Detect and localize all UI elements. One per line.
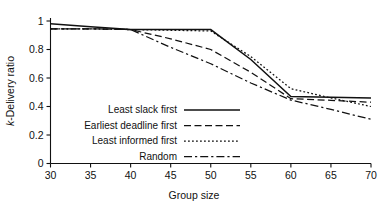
x-tick-label: 45: [165, 169, 177, 181]
x-tick-label: 55: [245, 169, 257, 181]
series-line-least-informed-first: [51, 29, 372, 107]
data-series-group: [51, 24, 372, 119]
series-line-random: [51, 29, 372, 119]
x-tick-label: 65: [325, 169, 337, 181]
y-tick-labels: 00.20.40.60.81: [29, 15, 44, 170]
y-tick-label: 0.2: [29, 129, 44, 141]
series-line-least-slack-first: [51, 24, 372, 98]
y-axis-title-rest: -Delivery ratio: [4, 56, 16, 121]
y-axis-title: k-Delivery ratio: [4, 56, 16, 126]
x-tick-labels: 303540455055606570: [45, 169, 377, 181]
chart-figure: 00.20.40.60.81 303540455055606570 Group …: [0, 0, 378, 205]
legend-label-random: Random: [139, 151, 177, 162]
x-tick-label: 50: [205, 169, 217, 181]
x-tick-label: 70: [365, 169, 377, 181]
x-tick-marks: [51, 164, 372, 168]
y-tick-label: 1: [38, 15, 44, 27]
x-tick-label: 30: [45, 169, 57, 181]
legend-label-least-slack-first: Least slack first: [108, 104, 177, 115]
y-tick-label: 0.6: [29, 72, 44, 84]
y-tick-label: 0.4: [29, 100, 44, 112]
line-chart: 00.20.40.60.81 303540455055606570 Group …: [0, 0, 378, 205]
legend-label-earliest-deadline-first: Earliest deadline first: [84, 120, 177, 131]
y-tick-label: 0: [38, 157, 44, 169]
x-tick-label: 40: [125, 169, 137, 181]
x-axis-title: Group size: [169, 189, 220, 201]
chart-legend: Least slack firstEarliest deadline first…: [84, 104, 240, 161]
x-tick-label: 60: [285, 169, 297, 181]
x-tick-label: 35: [85, 169, 97, 181]
legend-label-least-informed-first: Least informed first: [92, 135, 177, 146]
series-line-earliest-deadline-first: [51, 29, 372, 102]
y-tick-label: 0.8: [29, 43, 44, 55]
y-tick-marks: [47, 21, 51, 164]
